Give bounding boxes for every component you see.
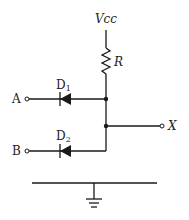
diode-d1	[60, 92, 71, 106]
input-a-terminal	[25, 97, 29, 101]
output-terminal	[160, 124, 164, 128]
input-b-label: B	[12, 144, 21, 158]
resistor-label: R	[113, 55, 123, 69]
resistor	[102, 48, 110, 74]
diode-d2	[60, 144, 71, 158]
ground-icon	[86, 183, 102, 207]
input-a-label: A	[11, 92, 21, 106]
input-b-terminal	[25, 149, 29, 153]
diode-d1-label: D1	[56, 78, 71, 93]
circuit-diagram: Vcc R A D1 B D2 X	[0, 0, 189, 220]
output-label: X	[167, 119, 177, 133]
vcc-label: Vcc	[95, 12, 117, 26]
diode-d2-label: D2	[56, 129, 71, 144]
